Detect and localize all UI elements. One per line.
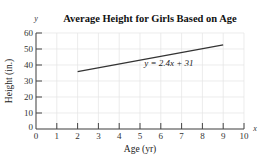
y-tick-label: 10	[24, 108, 34, 118]
x-tick-label: 5	[138, 131, 143, 141]
x-tick-label: 2	[75, 131, 80, 141]
y-tick-label: 0	[29, 122, 34, 132]
x-tick-label: 3	[96, 131, 101, 141]
x-tick-label: 6	[159, 131, 164, 141]
x-axis-variable: x	[252, 124, 257, 133]
x-tick-label: 7	[179, 131, 184, 141]
tick-labels: 0123456789100102030405060	[24, 28, 249, 141]
y-tick-label: 20	[24, 92, 34, 102]
x-tick-label: 1	[55, 131, 60, 141]
x-tick-label: 4	[117, 131, 122, 141]
y-tick-label: 60	[24, 28, 34, 38]
chart: 0123456789100102030405060 Average Height…	[0, 0, 264, 164]
y-tick-label: 40	[24, 60, 34, 70]
y-tick-label: 50	[24, 44, 34, 54]
y-axis-label: Height (in.)	[4, 59, 15, 103]
equation-annotation: y = 2.4x + 31	[143, 58, 193, 68]
x-tick-label: 10	[240, 131, 250, 141]
y-axis-variable: y	[33, 14, 38, 23]
x-tick-label: 9	[221, 131, 226, 141]
x-tick-label: 8	[200, 131, 205, 141]
x-axis-label: Age (yr)	[124, 144, 156, 155]
chart-title: Average Height for Girls Based on Age	[63, 13, 237, 24]
x-tick-label: 0	[34, 131, 39, 141]
y-tick-label: 30	[24, 76, 34, 86]
